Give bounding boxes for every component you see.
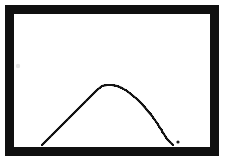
figure-svg: [0, 0, 226, 166]
plot-area: [14, 14, 210, 145]
ink-dot: [176, 140, 179, 143]
faint-smudge: [16, 64, 20, 68]
figure-canvas: [0, 0, 226, 166]
